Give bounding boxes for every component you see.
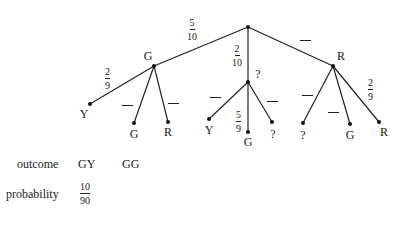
edge-R-G (333, 66, 350, 124)
edge-root-R (248, 27, 333, 66)
outcome-GY: GY (78, 158, 95, 170)
leaf-label-GR: R (164, 126, 172, 138)
edge-G-G (134, 66, 154, 123)
leaf-GY (88, 102, 92, 106)
tree-edges (0, 0, 406, 236)
prob-M-Y-blank (210, 97, 221, 98)
leaf-MY (207, 117, 211, 121)
node-label-G: G (144, 50, 153, 62)
prob-M-Q-blank (267, 101, 278, 102)
leaf-label-GY: Y (80, 108, 89, 120)
leaf-GG (132, 121, 136, 125)
outcome-label: outcome (17, 158, 58, 170)
prob-R-R: 2 9 (368, 78, 373, 102)
leaf-MG (246, 130, 250, 134)
prob-R-Q-blank (302, 95, 313, 96)
node-M (246, 80, 250, 84)
prob-root-G: 5 10 (187, 18, 197, 42)
leaf-GR (166, 120, 170, 124)
outcome-GG: GG (122, 158, 139, 170)
prob-M-G: 5 9 (236, 110, 241, 134)
edge-G-R (154, 66, 168, 122)
leaf-RR (377, 120, 381, 124)
prob-root-M: 2 10 (232, 44, 242, 68)
leaf-RG (348, 122, 352, 126)
node-label-R: R (337, 50, 345, 62)
prob-root-R-blank (300, 40, 311, 41)
prob-G-Y: 2 9 (105, 67, 110, 91)
node-G (152, 64, 156, 68)
node-label-M: ? (255, 68, 260, 80)
prob-R-G-blank (328, 112, 339, 113)
prob-G-R-blank (168, 103, 179, 104)
leaf-label-MQ: ? (270, 128, 275, 140)
edge-M-Q (248, 82, 272, 122)
leaf-label-RQ: ? (300, 129, 305, 141)
edge-G-Y (90, 66, 154, 104)
leaf-label-RG: G (346, 129, 355, 141)
leaf-RQ (301, 121, 305, 125)
edge-M-Y (209, 82, 248, 119)
leaf-label-GG: G (130, 128, 139, 140)
leaf-MQ (270, 120, 274, 124)
probability-label: probability (6, 188, 59, 200)
leaf-label-MY: Y (205, 124, 214, 136)
probability-GY: 10 90 (80, 182, 90, 206)
prob-G-G-blank (122, 105, 133, 106)
root-node (246, 25, 250, 29)
leaf-label-RR: R (380, 126, 388, 138)
leaf-label-MG: G (244, 136, 253, 148)
node-R (331, 64, 335, 68)
